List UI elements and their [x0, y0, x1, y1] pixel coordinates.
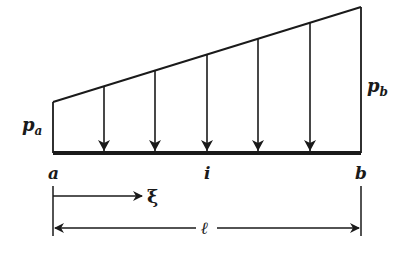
node-label-b: b — [355, 163, 367, 183]
load-diagram: pa pb a i b ξ ℓ — [0, 0, 407, 255]
node-label-i: i — [204, 163, 210, 183]
label-length: ℓ — [201, 218, 208, 238]
node-label-a: a — [48, 163, 59, 183]
label-pb: pb — [367, 75, 388, 99]
label-pa: pa — [22, 114, 42, 138]
load-arrows — [104, 23, 310, 151]
label-xi: ξ — [147, 185, 158, 207]
